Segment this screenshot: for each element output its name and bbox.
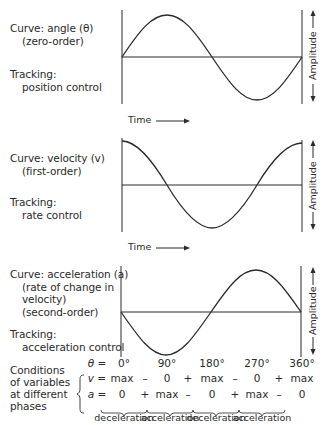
panel3-amplitude-label: Amplitude	[307, 286, 318, 335]
theta-0: 0°	[118, 357, 130, 369]
v-5: –	[232, 372, 237, 384]
v-2: 0	[164, 372, 171, 384]
panel3-amp-arrowhead-up	[311, 267, 316, 273]
conditions-label-line-1: Conditions	[10, 364, 70, 376]
panel2-time-label: Time	[128, 241, 151, 252]
v-7: +	[275, 372, 284, 384]
panel1-time-label: Time	[128, 114, 151, 125]
v-var: v =	[88, 372, 106, 384]
conditions-label-line-4: phases	[10, 400, 70, 412]
panel3-plot	[121, 266, 301, 357]
a-7: –	[276, 388, 281, 400]
a-8: 0	[299, 388, 306, 400]
conditions-label-line-2: of variables	[10, 376, 70, 388]
panel1-plot	[122, 10, 302, 104]
theta-270: 270°	[244, 357, 269, 369]
a-var: a =	[88, 388, 107, 400]
panel2-amp-arrowhead-up	[311, 140, 316, 146]
v-3: +	[184, 372, 193, 384]
theta-90: 90°	[158, 357, 177, 369]
a-0: 0	[119, 388, 126, 400]
a-4: 0	[209, 388, 216, 400]
a-6: max	[246, 388, 269, 400]
a-5: +	[231, 388, 240, 400]
conditions-brace	[77, 375, 84, 413]
panel2-amp-arrowhead-down	[311, 224, 316, 230]
panel3-amp-arrowhead-down	[311, 349, 316, 355]
v-8: max	[291, 372, 314, 384]
v-6: 0	[254, 372, 261, 384]
v-1: –	[142, 372, 147, 384]
panel1-amp-arrowhead-down	[311, 96, 316, 102]
conditions-label: Conditions of variables at different pha…	[10, 364, 70, 412]
theta-var: θ =	[88, 357, 107, 369]
a-2: max	[156, 388, 179, 400]
panel2-plot	[122, 138, 302, 232]
a-1: +	[141, 388, 150, 400]
theta-180: 180°	[199, 357, 224, 369]
panel1-time-arrowhead	[184, 119, 190, 124]
panel2-amplitude-label: Amplitude	[307, 161, 318, 210]
conditions-label-line-3: at different	[10, 388, 70, 400]
panel2-time-arrowhead	[184, 246, 190, 251]
phase-label-4: acceleration	[233, 412, 292, 423]
v-4: max	[201, 372, 224, 384]
v-0: max	[111, 372, 134, 384]
a-3: –	[185, 388, 190, 400]
panel1-amplitude-label: Amplitude	[307, 31, 318, 80]
panel1-amp-arrowhead-up	[311, 10, 316, 16]
theta-360: 360°	[289, 357, 314, 369]
